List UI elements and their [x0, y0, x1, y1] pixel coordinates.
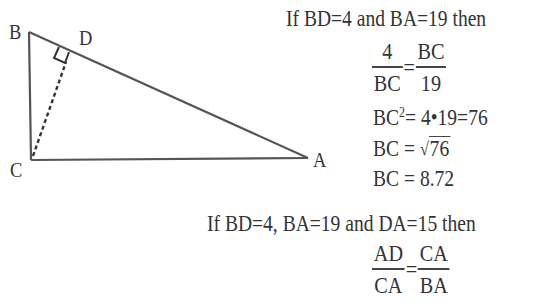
side-ba: [29, 32, 308, 158]
step1-rhs: = 4•19=76: [405, 105, 488, 130]
right-fraction: CA BA: [418, 242, 450, 297]
left-fraction: AD CA: [372, 242, 405, 297]
radicand: 76: [429, 136, 450, 161]
step1-lhs: BC: [373, 105, 399, 130]
equals-sign: =: [406, 258, 417, 281]
part1-proportion: 4 BC = BC 19: [372, 40, 446, 95]
right-numerator: BC: [416, 40, 447, 66]
part1-intro: If BD=4 and BA=19 then: [286, 7, 486, 30]
left-fraction: 4 BC: [372, 40, 403, 95]
right-denominator: BA: [418, 270, 450, 297]
altitude-cd: [33, 62, 66, 156]
part1-step2: BC = √76: [373, 136, 450, 161]
square-root: √76: [420, 136, 450, 161]
left-denominator: CA: [373, 270, 405, 297]
equals-sign: =: [403, 56, 414, 79]
right-fraction: BC 19: [416, 40, 447, 95]
left-numerator: AD: [372, 242, 405, 268]
left-denominator: BC: [372, 68, 403, 95]
side-bc: [29, 32, 31, 160]
right-denominator: 19: [419, 68, 443, 95]
left-numerator: 4: [380, 40, 394, 66]
side-ca: [31, 158, 308, 160]
step2-lhs: BC =: [373, 136, 415, 161]
vertex-label-c: C: [10, 160, 22, 181]
vertex-label-b: B: [9, 22, 21, 43]
radical-icon: √: [420, 138, 429, 159]
part1-step1: BC2= 4•19=76: [373, 106, 488, 129]
vertex-label-a: A: [313, 150, 326, 171]
vertex-label-d: D: [79, 28, 92, 49]
part2-proportion: AD CA = CA BA: [372, 242, 450, 297]
part1-step3: BC = 8.72: [373, 167, 454, 190]
right-numerator: CA: [418, 242, 450, 268]
part2-intro: If BD=4, BA=19 and DA=15 then: [207, 212, 476, 235]
